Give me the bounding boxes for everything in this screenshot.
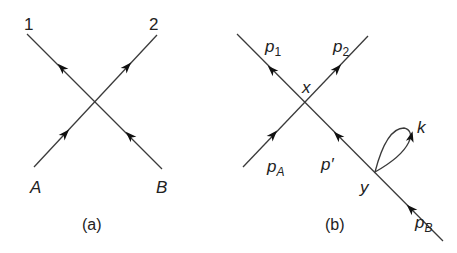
label-2: 2: [149, 15, 158, 34]
label-1: 1: [24, 15, 33, 34]
diagram-b: p1 p2 x pA p′ y k pB (b): [237, 34, 443, 241]
caption-a: (a): [82, 216, 102, 233]
loop-k: [375, 128, 410, 172]
label-vertex-y: y: [359, 178, 370, 197]
label-B: B: [156, 178, 167, 197]
caption-b: (b): [325, 216, 345, 233]
diagram-a: 1 2 A B (a): [24, 15, 167, 233]
arrow-icon: [55, 61, 68, 74]
label-pprime: p′: [320, 155, 334, 174]
label-pA: pA: [266, 157, 284, 179]
label-p1: p1: [264, 37, 281, 59]
arrow-icon: [123, 129, 136, 142]
label-pB: pB: [414, 213, 432, 235]
label-loop-k: k: [417, 118, 427, 137]
feynman-diagrams: 1 2 A B (a) p1 p2 x pA p′ y k pB (b): [0, 0, 457, 253]
line-A-to-2: [34, 35, 157, 167]
label-vertex-x: x: [301, 78, 311, 97]
arrow-icon: [406, 130, 417, 143]
label-p2: p2: [332, 37, 349, 59]
label-A: A: [29, 178, 41, 197]
